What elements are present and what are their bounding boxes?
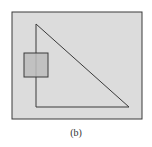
diagram-canvas: [0, 0, 152, 147]
figure-caption: (b): [0, 127, 152, 138]
small-square: [24, 53, 48, 77]
